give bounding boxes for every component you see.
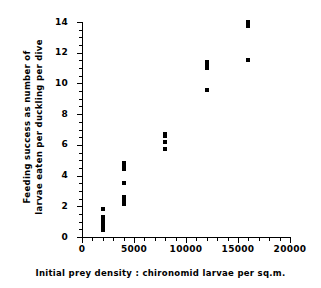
x-tick-minor xyxy=(207,238,208,241)
x-tick-minor xyxy=(113,238,114,241)
data-point xyxy=(246,20,250,24)
x-tick-minor xyxy=(259,238,260,241)
x-tick-major xyxy=(290,238,291,243)
x-tick-minor xyxy=(92,238,93,241)
data-point xyxy=(163,140,167,144)
x-tick-minor xyxy=(103,238,104,241)
data-point xyxy=(163,147,167,151)
y-tick-label: 10 xyxy=(44,79,68,88)
x-tick-minor xyxy=(155,238,156,241)
x-tick-minor xyxy=(269,238,270,241)
data-point xyxy=(205,88,209,92)
x-tick-minor xyxy=(217,238,218,241)
x-tick-minor xyxy=(196,238,197,241)
data-point xyxy=(122,181,126,185)
x-tick-major xyxy=(82,238,83,243)
x-tick-label: 5000 xyxy=(121,245,147,254)
y-axis-title: Feeding success as number of larvae eate… xyxy=(21,37,45,217)
x-tick-minor xyxy=(144,238,145,241)
x-tick-minor xyxy=(228,238,229,241)
y-tick-label: 8 xyxy=(44,110,68,119)
x-tick-minor xyxy=(248,238,249,241)
x-tick-major xyxy=(134,238,135,243)
y-axis-title-line-2: larvae eaten per duckling per dive xyxy=(33,37,45,217)
data-point xyxy=(246,24,250,28)
x-tick-major xyxy=(238,238,239,243)
x-tick-minor xyxy=(165,238,166,241)
data-point xyxy=(163,132,167,136)
data-point-layer xyxy=(82,22,290,237)
scatter-plot-figure: 02468101214 05000100001500020000 Feeding… xyxy=(0,0,321,288)
y-tick-label: 12 xyxy=(44,48,68,57)
x-tick-label: 20000 xyxy=(274,245,307,254)
y-tick-label: 14 xyxy=(44,18,68,27)
x-tick-major xyxy=(186,238,187,243)
data-point xyxy=(101,207,105,211)
y-tick-label: 4 xyxy=(44,171,68,180)
data-point xyxy=(122,195,126,199)
y-tick-label: 0 xyxy=(44,233,68,242)
x-tick-minor xyxy=(280,238,281,241)
data-point xyxy=(122,161,126,165)
y-axis-title-line-1: Feeding success as number of xyxy=(21,37,33,217)
x-tick-label: 15000 xyxy=(222,245,255,254)
x-axis-title: Initial prey density : chironomid larvae… xyxy=(0,268,321,278)
x-tick-minor xyxy=(124,238,125,241)
y-tick-label: 2 xyxy=(44,202,68,211)
x-tick-label: 0 xyxy=(79,245,86,254)
data-point xyxy=(101,215,105,219)
y-tick-label: 6 xyxy=(44,140,68,149)
x-tick-minor xyxy=(176,238,177,241)
data-point xyxy=(246,58,250,62)
data-point xyxy=(122,165,126,169)
data-point xyxy=(205,64,209,68)
x-tick-label: 10000 xyxy=(170,245,203,254)
data-point xyxy=(205,60,209,64)
